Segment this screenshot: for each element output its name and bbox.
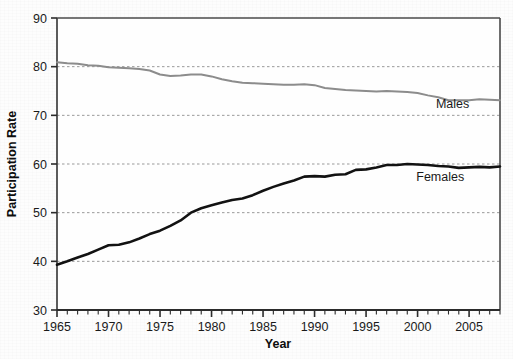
x-tick-label-1975: 1975 xyxy=(146,320,174,334)
x-tick-label-1985: 1985 xyxy=(249,320,277,334)
chart-figure: 30405060708090 1965197019751980198519901… xyxy=(0,0,513,359)
x-tick-label-1965: 1965 xyxy=(43,320,71,334)
line-chart: 30405060708090 1965197019751980198519901… xyxy=(0,0,513,359)
x-axis-tick-labels: 196519701975198019851990199520002005 xyxy=(43,320,483,334)
x-axis-title: Year xyxy=(265,337,292,351)
y-axis-title: Participation Rate xyxy=(5,111,19,217)
x-tick-label-1990: 1990 xyxy=(301,320,329,334)
series-label-females: Females xyxy=(416,170,464,184)
x-tick-label-1980: 1980 xyxy=(198,320,226,334)
y-tick-label-30: 30 xyxy=(33,304,47,318)
y-tick-label-40: 40 xyxy=(33,255,47,269)
x-tick-label-1995: 1995 xyxy=(352,320,380,334)
y-tick-label-90: 90 xyxy=(33,12,47,26)
y-tick-label-70: 70 xyxy=(33,109,47,123)
x-tick-label-2000: 2000 xyxy=(404,320,432,334)
y-tick-label-80: 80 xyxy=(33,60,47,74)
series-label-males: Males xyxy=(436,97,469,111)
y-axis-tick-labels: 30405060708090 xyxy=(33,12,47,318)
y-tick-label-60: 60 xyxy=(33,158,47,172)
x-tick-label-1970: 1970 xyxy=(95,320,123,334)
x-tick-label-2005: 2005 xyxy=(455,320,483,334)
y-tick-label-50: 50 xyxy=(33,206,47,220)
x-axis-ticks xyxy=(57,310,500,317)
